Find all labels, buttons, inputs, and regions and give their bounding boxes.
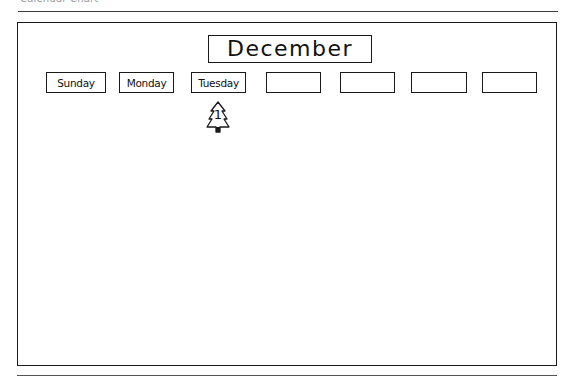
day-header-blank-6 [411, 72, 467, 93]
day-header-tuesday: Tuesday [191, 72, 246, 93]
chart-caption: Calendar Chart [20, 0, 98, 4]
date-marker-1: 1 [203, 100, 233, 134]
day-header-blank-5 [340, 72, 395, 93]
day-header-monday: Monday [119, 72, 174, 93]
day-header-blank-4 [266, 72, 321, 93]
date-number: 1 [203, 107, 233, 122]
bottom-divider [17, 375, 557, 376]
top-divider [18, 11, 558, 12]
month-title: December [208, 35, 372, 63]
day-header-sunday: Sunday [46, 72, 106, 93]
day-header-blank-7 [482, 72, 537, 93]
